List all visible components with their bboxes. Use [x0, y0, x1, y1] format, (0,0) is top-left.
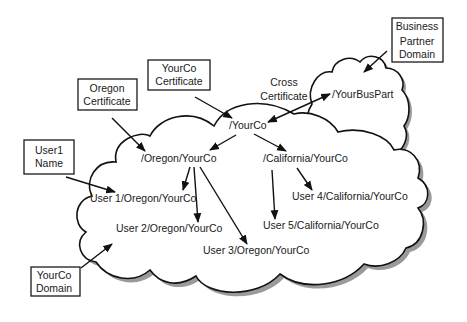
business-partner-domain-box: Business Partner Domain [392, 18, 443, 62]
business-partner-line2: Partner [400, 35, 435, 47]
yourco-domain-line1: YourCo [37, 269, 72, 281]
node-yourco-root: /YourCo [229, 119, 267, 131]
arrow-yourco-certificate [195, 97, 232, 118]
yourco-certificate-line2: Certificate [155, 75, 202, 87]
node-oregon: /Oregon/YourCo [141, 152, 217, 164]
pki-domain-diagram: YourCo Certificate Oregon Certificate Us… [0, 0, 467, 322]
user1-name-box: User1 Name [24, 140, 74, 174]
business-partner-line3: Domain [399, 48, 435, 60]
yourco-certificate-line1: YourCo [162, 62, 197, 74]
yourco-certificate-box: YourCo Certificate [148, 60, 210, 90]
oregon-certificate-box: Oregon Certificate [78, 79, 137, 110]
user1-name-line2: Name [35, 157, 63, 169]
cross-certificate-label-line1: Cross [270, 76, 297, 88]
node-yourbuspart: /YourBusPart [332, 88, 394, 100]
node-user4: User 4/California/YourCo [292, 190, 408, 202]
oregon-certificate-line1: Oregon [89, 82, 124, 94]
yourco-domain-line2: Domain [36, 282, 72, 294]
yourco-domain-box: YourCo Domain [31, 267, 80, 296]
node-user5: User 5/California/YourCo [263, 219, 379, 231]
node-user3: User 3/Oregon/YourCo [203, 244, 310, 256]
user1-name-line1: User1 [35, 144, 63, 156]
node-california: /California/YourCo [263, 152, 348, 164]
cross-certificate-label-line2: Certificate [260, 90, 307, 102]
oregon-certificate-line2: Certificate [83, 95, 130, 107]
node-user1: User 1/Oregon/YourCo [90, 192, 197, 204]
node-user2: User 2/Oregon/YourCo [116, 222, 223, 234]
business-partner-line1: Business [396, 20, 439, 32]
